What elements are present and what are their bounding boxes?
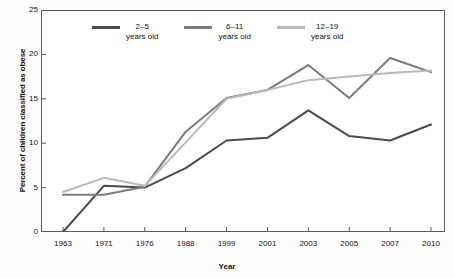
- x-tick-label: 2003: [286, 239, 330, 248]
- legend-color-swatch: [92, 26, 120, 29]
- y-tick-label: 5: [4, 184, 38, 192]
- y-tick-marks: [41, 54, 46, 187]
- series-line: [63, 70, 431, 192]
- legend-entry: 6–11years old: [184, 22, 250, 42]
- x-tick-label: 2010: [409, 239, 453, 248]
- x-tick-label: 2001: [245, 239, 289, 248]
- chart-figure: Percent of children classified as obese …: [0, 0, 454, 278]
- legend-entry: 2–5years old: [92, 22, 158, 42]
- y-tick-label: 25: [4, 6, 38, 14]
- legend-entry: 12–19years old: [277, 22, 343, 42]
- x-tick-label: 1976: [123, 239, 167, 248]
- legend-label: 12–19years old: [311, 22, 343, 42]
- x-tick-label: 1999: [205, 239, 249, 248]
- y-tick-label: 20: [4, 50, 38, 58]
- legend-label-units: years old: [218, 32, 250, 42]
- x-tick-label: 2007: [368, 239, 412, 248]
- series-lines: [63, 58, 431, 232]
- legend-label: 6–11years old: [218, 22, 250, 42]
- legend-label-range: 12–19: [316, 22, 338, 31]
- y-axis-tick-labels: 0510152025: [0, 0, 38, 278]
- x-tick-label: 1971: [82, 239, 126, 248]
- x-tick-label: 1988: [164, 239, 208, 248]
- series-line: [63, 58, 431, 195]
- y-tick-label: 0: [4, 228, 38, 236]
- y-tick-label: 15: [4, 95, 38, 103]
- legend-label-units: years old: [126, 32, 158, 42]
- x-tick-label: 1963: [41, 239, 85, 248]
- legend-label-units: years old: [311, 32, 343, 42]
- legend-color-swatch: [184, 26, 212, 29]
- x-axis-title: Year: [0, 262, 454, 271]
- chart-legend: 2–5years old6–11years old12–19years old: [92, 22, 343, 42]
- series-line: [63, 110, 431, 232]
- x-tick-marks: [63, 227, 431, 232]
- chart-canvas: [41, 10, 445, 232]
- x-tick-label: 2005: [327, 239, 371, 248]
- legend-label: 2–5years old: [126, 22, 158, 42]
- legend-color-swatch: [277, 26, 305, 29]
- legend-label-range: 6–11: [226, 22, 243, 31]
- legend-label-range: 2–5: [136, 22, 149, 31]
- y-tick-label: 10: [4, 139, 38, 147]
